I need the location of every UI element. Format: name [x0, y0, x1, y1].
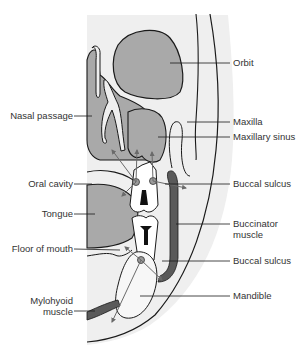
- label-mylohyoid-line1: Mylohyoid: [30, 295, 73, 306]
- label-buccal-sulcus-lower: Buccal sulcus: [233, 255, 291, 266]
- label-buccinator-muscle: Buccinator muscle: [233, 218, 278, 240]
- label-floor-of-mouth: Floor of mouth: [12, 243, 73, 254]
- maxillary-sinus: [128, 109, 166, 162]
- label-oral-cavity: Oral cavity: [28, 178, 73, 189]
- label-mylohyoid-muscle: Mylohyoid muscle: [30, 295, 73, 317]
- label-mandible: Mandible: [233, 290, 272, 301]
- label-mylohyoid-line2: muscle: [30, 306, 73, 317]
- orbit: [113, 30, 182, 98]
- label-maxillary-sinus: Maxillary sinus: [233, 131, 295, 142]
- label-orbit: Orbit: [233, 57, 254, 68]
- label-buccinator-line1: Buccinator: [233, 218, 278, 229]
- label-nasal-passage: Nasal passage: [10, 110, 73, 121]
- label-buccal-sulcus-upper: Buccal sulcus: [233, 178, 291, 189]
- label-tongue: Tongue: [42, 208, 73, 219]
- label-maxilla: Maxilla: [233, 116, 263, 127]
- label-buccinator-line2: muscle: [233, 229, 278, 240]
